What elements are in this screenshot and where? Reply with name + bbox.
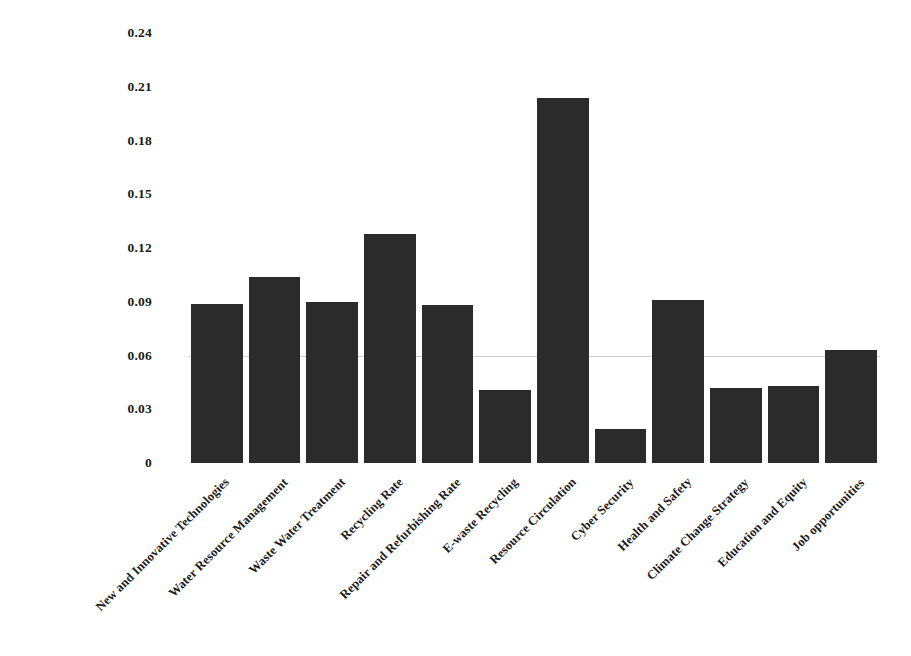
y-tick-label: 0.24 xyxy=(128,26,152,40)
bar xyxy=(652,300,704,463)
y-tick-label: 0.06 xyxy=(128,349,152,363)
bar xyxy=(479,390,531,463)
y-tick-label: 0 xyxy=(145,456,152,470)
bars-series xyxy=(188,33,880,463)
y-axis: 0.240.210.180.150.120.090.060.030 xyxy=(0,0,188,500)
bar xyxy=(191,304,243,463)
bar-chart-figure: 0.240.210.180.150.120.090.060.030 New an… xyxy=(0,0,911,656)
plot-area xyxy=(188,33,880,463)
bar xyxy=(825,350,877,463)
bar xyxy=(710,388,762,463)
y-tick-label: 0.21 xyxy=(128,80,152,94)
bar xyxy=(422,305,474,463)
y-tick-label: 0.03 xyxy=(128,402,152,416)
x-tick-label: Climate Change Strategy xyxy=(644,475,752,583)
bar xyxy=(249,277,301,463)
bar xyxy=(595,429,647,463)
bar xyxy=(306,302,358,463)
bar xyxy=(768,386,820,463)
y-tick-label: 0.15 xyxy=(128,187,152,201)
y-tick-label: 0.12 xyxy=(128,241,152,255)
x-tick-label: Repair and Refurbishing Rate xyxy=(337,475,464,602)
bar xyxy=(364,234,416,463)
y-tick-label: 0.09 xyxy=(128,295,152,309)
y-tick-label: 0.18 xyxy=(128,134,152,148)
bar xyxy=(537,98,589,464)
x-tick-label: Waste Water Treatment xyxy=(246,475,349,578)
